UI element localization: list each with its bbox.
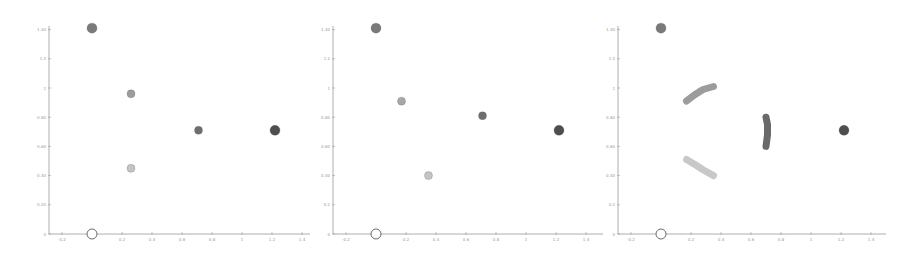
y-tick-label: 1 <box>612 86 615 91</box>
y-tick-label: 0.40 <box>606 173 615 178</box>
x-tick-label: 1 <box>810 237 813 242</box>
y-tick-label: 0.80 <box>606 115 615 120</box>
origin-marker <box>656 229 666 239</box>
y-tick-label: 1.2 <box>609 56 616 61</box>
scatter-panel-3: 00.20.400.600.8011.21.40-0.20.20.40.60.8… <box>0 0 916 256</box>
x-tick-label: -0.2 <box>627 237 635 242</box>
x-tick-label: 0.8 <box>778 237 785 242</box>
data-point <box>656 23 666 33</box>
light-arc <box>687 160 714 176</box>
data-point <box>839 125 849 135</box>
x-tick-label: 1.4 <box>868 237 875 242</box>
y-tick-label: 0.2 <box>609 202 616 207</box>
scatter-plot-3: 00.20.400.600.8011.21.40-0.20.20.40.60.8… <box>0 0 916 256</box>
y-tick-label: 0.60 <box>606 144 615 149</box>
y-tick-label: 1.40 <box>606 27 615 32</box>
gray-arc <box>687 87 714 102</box>
y-tick-label: 0 <box>612 232 615 237</box>
x-tick-label: 0.6 <box>748 237 755 242</box>
x-tick-label: 0.4 <box>718 237 725 242</box>
x-tick-label: 0.2 <box>688 237 695 242</box>
x-tick-label: 1.2 <box>838 237 845 242</box>
dark-arc <box>766 117 768 146</box>
